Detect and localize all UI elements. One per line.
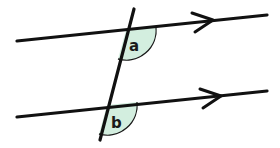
diagram-canvas: a b [0,0,280,148]
parallel-lines-diagram: a b [0,0,280,148]
angle-a-label: a [129,37,139,55]
bottom-parallel-line [17,91,267,117]
angle-b-label: b [111,114,122,132]
